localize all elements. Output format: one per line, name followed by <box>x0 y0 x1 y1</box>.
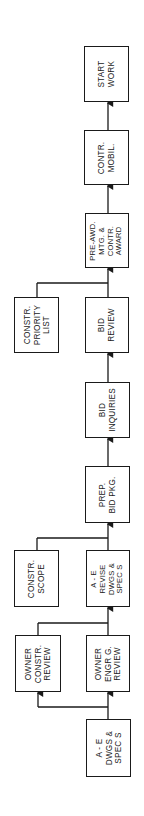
label-line: INQUIRIES <box>108 388 118 432</box>
label-line: WORK <box>107 60 117 87</box>
label-line: SPEC S <box>117 563 126 595</box>
box-contr-mobil: CONTR.MOBIL. <box>84 130 129 185</box>
box-ae-dwgs-specs: A - EDWGS &SPEC S <box>86 719 131 777</box>
box-owner-constr-review: OWNERCONSTR.REVIEW <box>15 635 61 692</box>
box-bid-review: BIDREVIEW <box>85 297 129 353</box>
label-line: CONSTR. <box>27 559 37 597</box>
label-line: AWARD <box>116 221 125 260</box>
label-line: CONTR. <box>97 141 107 174</box>
box-constr-priority-list: CONSTR.PRIORITYLIST <box>14 297 59 353</box>
label-line: REVIEW <box>113 646 123 682</box>
label-line: SCOPE <box>37 559 47 597</box>
label-line: SPEC S <box>113 731 123 765</box>
label-line: ENGR G. <box>103 646 113 682</box>
box-constr-scope: CONSTR.SCOPE <box>14 550 59 607</box>
label-line: BID PKG. <box>108 476 118 513</box>
label-line: MOBIL. <box>107 141 117 174</box>
label-line: PRIORITY <box>32 305 42 345</box>
label-line: PREP. <box>98 476 108 513</box>
box-prep-bid-pkg: PREP.BID PKG. <box>85 466 130 523</box>
label-line: REVIEW <box>107 308 117 342</box>
label-line: OWNER <box>24 644 34 682</box>
box-start-work: STARTWORK <box>84 46 129 102</box>
box-bid-inquiries: BIDINQUIRIES <box>85 382 130 438</box>
label-line: START <box>97 60 107 87</box>
label-line: CONSTR. <box>33 644 43 682</box>
box-pre-awd-mtg-contr-award: PRE-AWD.MTG. &CONTR.AWARD <box>85 213 129 268</box>
box-owner-engrg-review: OWNERENGR G.REVIEW <box>86 635 130 692</box>
label-line: DWGS & <box>104 731 114 765</box>
label-line: LIST <box>41 305 51 345</box>
box-ae-revise-dwgs-specs: A - EREVISEDWGS &SPEC S <box>86 550 130 607</box>
label-line: BID <box>98 388 108 432</box>
label-line: CONSTR. <box>22 305 32 345</box>
label-line: BID <box>97 308 107 342</box>
label-line: REVIEW <box>43 644 53 682</box>
label-line: OWNER <box>94 646 104 682</box>
flowchart: STARTWORK CONTR.MOBIL. PRE-AWD.MTG. &CON… <box>0 0 144 816</box>
label-line: A - E <box>94 731 104 765</box>
